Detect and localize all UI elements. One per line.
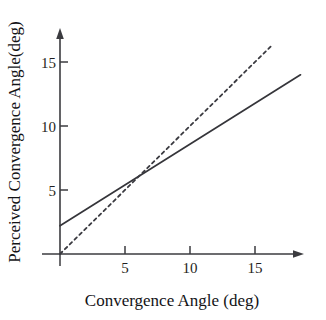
x-tick-label-15: 15 xyxy=(248,260,263,276)
series-layer xyxy=(60,47,301,254)
y-tick-label-15: 15 xyxy=(41,55,56,71)
series-line-perceived-response xyxy=(60,75,301,226)
x-axis-title: Convergence Angle (deg) xyxy=(85,291,259,310)
y-tick-label-10: 10 xyxy=(41,119,56,135)
x-axis-arrow-icon xyxy=(293,250,304,258)
y-tick-label-5: 5 xyxy=(49,183,57,199)
x-tick-label-10: 10 xyxy=(183,260,198,276)
y-axis-arrow-icon xyxy=(56,28,64,39)
chart-figure: Perceived Convergence Angle(deg) Converg… xyxy=(0,0,326,320)
chart-plot-area: Perceived Convergence Angle(deg) Converg… xyxy=(0,0,326,320)
series-line-unity-reference xyxy=(60,47,271,254)
x-tick-label-5: 5 xyxy=(121,260,129,276)
y-axis-title: Perceived Convergence Angle(deg) xyxy=(5,21,24,262)
